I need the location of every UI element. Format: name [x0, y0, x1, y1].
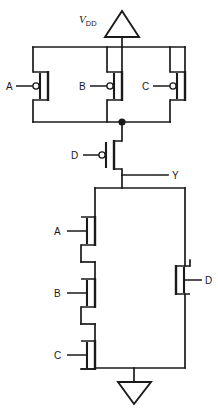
- nmos-transistor-c[interactable]: C: [54, 340, 95, 370]
- pmos-transistor-a[interactable]: A: [6, 71, 48, 101]
- pmos-d-gate-bubble-icon: [99, 152, 105, 158]
- nmos-b-label: B: [54, 288, 61, 299]
- pmos-d-label: D: [71, 150, 78, 161]
- pmos-a-gate-bubble-icon: [33, 83, 39, 89]
- nmos-c-label: C: [54, 350, 61, 361]
- nmos-bottom-rail: [95, 368, 185, 382]
- pmos-c-label: C: [142, 81, 149, 92]
- nmos-transistor-d[interactable]: D: [176, 265, 212, 295]
- pmos-bottom-rail: [33, 118, 170, 141]
- pmos-transistor-d[interactable]: D: [71, 140, 122, 170]
- circuit-schematic: VDD A B: [0, 0, 218, 413]
- nmos-a-label: A: [54, 226, 61, 237]
- nmos-d-label: D: [205, 275, 212, 286]
- nmos-transistor-b[interactable]: B: [54, 278, 95, 308]
- nmos-transistor-a[interactable]: A: [54, 216, 95, 246]
- schematic-canvas: VDD A B: [0, 0, 218, 413]
- vdd-triangle-icon: [105, 11, 139, 37]
- vdd-supply-symbol: [105, 11, 139, 47]
- pmos-b-gate-bubble-icon: [107, 83, 113, 89]
- pmos-top-rail: [33, 47, 185, 72]
- vdd-label: VDD: [79, 13, 97, 28]
- output-node-y: Y: [122, 169, 179, 188]
- nmos-top-rail: [95, 188, 185, 266]
- ground-symbol: [118, 382, 151, 404]
- pmos-transistor-c[interactable]: C: [142, 71, 185, 101]
- pmos-a-label: A: [6, 81, 13, 92]
- output-label-y: Y: [172, 170, 179, 181]
- pmos-c-gate-bubble-icon: [170, 83, 176, 89]
- ground-triangle-icon: [118, 382, 151, 404]
- pmos-transistor-b[interactable]: B: [79, 71, 122, 101]
- pmos-b-label: B: [79, 81, 86, 92]
